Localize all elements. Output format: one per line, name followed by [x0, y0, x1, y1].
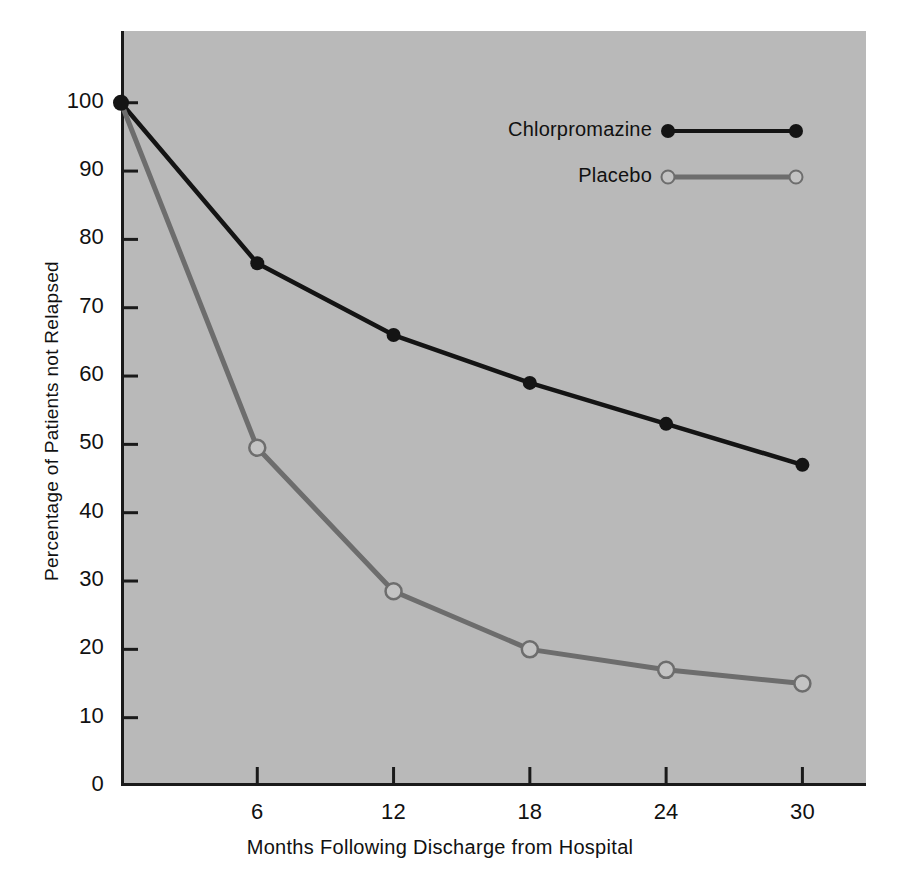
- x-tick-label: 6: [227, 799, 287, 825]
- legend-item-chlorpromazine: Chlorpromazine: [470, 118, 810, 164]
- x-tick-label: 18: [500, 799, 560, 825]
- y-axis-title: Percentage of Patients not Relapsed: [41, 111, 63, 731]
- legend-label-placebo: Placebo: [470, 164, 652, 187]
- x-tick-label: 12: [364, 799, 424, 825]
- y-tick-label: 0: [52, 771, 104, 797]
- legend-swatch-placebo: [660, 168, 804, 186]
- y-tick-label: 100: [52, 88, 104, 114]
- legend-label-chlorpromazine: Chlorpromazine: [470, 118, 652, 141]
- legend-swatch-chlorpromazine: [660, 122, 804, 140]
- legend-item-placebo: Placebo: [470, 164, 810, 210]
- chart-legend: Chlorpromazine Placebo: [470, 118, 810, 210]
- x-tick-label: 24: [636, 799, 696, 825]
- chart-figure: 0102030405060708090100 612182430 Months …: [0, 0, 902, 877]
- x-tick-label: 30: [772, 799, 832, 825]
- x-axis-tick-labels: 612182430: [0, 799, 902, 829]
- x-axis-title: Months Following Discharge from Hospital: [0, 836, 880, 859]
